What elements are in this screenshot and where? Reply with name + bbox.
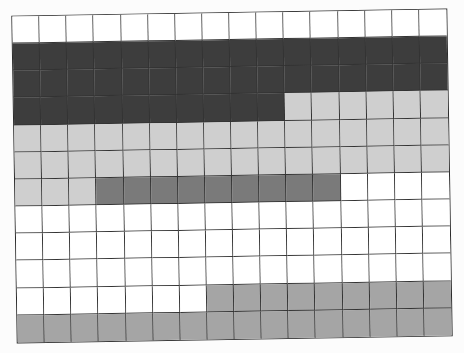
grid-cell: [392, 37, 420, 65]
grid-cell: [393, 64, 421, 92]
grid-cell: [286, 175, 314, 203]
grid-cell: [68, 124, 96, 152]
grid-cell: [126, 313, 154, 341]
grid-cell: [204, 149, 232, 177]
grid-cell: [423, 254, 451, 282]
grid-cell: [230, 67, 258, 95]
shaded-grid: [11, 8, 452, 343]
grid-cell: [288, 283, 316, 311]
grid-cell: [233, 257, 261, 285]
grid-cell: [284, 66, 312, 94]
grid-cell: [94, 42, 122, 70]
grid-cell: [95, 123, 123, 151]
grid-cell: [257, 39, 285, 67]
grid-cell: [125, 286, 153, 314]
grid-cell: [394, 146, 422, 174]
grid-cell: [15, 152, 43, 180]
grid-cell: [315, 283, 343, 311]
grid-cell: [259, 148, 287, 176]
grid-cell: [175, 13, 203, 41]
grid-cell: [370, 309, 398, 337]
grid-cell: [15, 179, 43, 207]
grid-cell: [420, 91, 448, 119]
grid-cell: [231, 121, 259, 149]
grid-cell: [44, 287, 72, 315]
grid-cell: [42, 179, 70, 207]
grid-cell: [124, 177, 152, 205]
grid-cell: [261, 311, 289, 339]
grid-cell: [258, 94, 286, 122]
grid-cell: [367, 119, 395, 147]
grid-cell: [67, 70, 95, 98]
grid-cell: [256, 12, 284, 40]
grid-cell: [311, 11, 339, 39]
grid-cell: [40, 43, 68, 71]
grid-cell: [422, 172, 450, 200]
grid-cell: [13, 70, 41, 98]
grid-cell: [341, 228, 369, 256]
grid-cell: [150, 123, 178, 151]
grid-cell: [151, 204, 179, 232]
grid-cell: [72, 314, 100, 342]
grid-cell: [149, 95, 177, 123]
grid-cell: [121, 14, 149, 42]
grid-cell: [232, 176, 260, 204]
grid-cell: [311, 38, 339, 66]
grid-cell: [203, 67, 231, 95]
grid-cell: [40, 70, 68, 98]
grid-cell: [203, 40, 231, 68]
grid-cell: [315, 256, 343, 284]
grid-cell: [13, 43, 41, 71]
grid-cell: [207, 312, 235, 340]
grid-cell: [368, 200, 396, 228]
grid-cell: [396, 227, 424, 255]
grid-cell: [202, 13, 230, 41]
grid-cell: [397, 309, 425, 337]
grid-cell: [70, 205, 98, 233]
grid-cell: [312, 93, 340, 121]
grid-cell: [69, 178, 97, 206]
grid-cell: [339, 65, 367, 93]
grid-cell: [284, 39, 312, 67]
grid-cell: [148, 14, 176, 42]
grid-cell: [424, 281, 452, 309]
grid-cell: [340, 119, 368, 147]
grid-cell: [260, 257, 288, 285]
grid-cell: [95, 96, 123, 124]
grid-cell: [67, 42, 95, 70]
grid-cell: [41, 124, 69, 152]
grid-cell: [396, 254, 424, 282]
grid-cell: [41, 97, 69, 125]
grid-cell: [180, 312, 208, 340]
grid-cell: [95, 69, 123, 97]
grid-cell: [178, 176, 206, 204]
grid-cell: [260, 229, 288, 257]
grid-cell: [313, 174, 341, 202]
grid-cell: [122, 69, 150, 97]
grid-cell: [43, 233, 71, 261]
grid-cell: [71, 287, 99, 315]
grid-cell: [149, 68, 177, 96]
grid-cell: [97, 232, 125, 260]
grid-cell: [98, 286, 126, 314]
grid-cell: [94, 15, 122, 43]
grid-cell: [397, 281, 425, 309]
grid-cell: [122, 96, 150, 124]
grid-cell: [316, 310, 344, 338]
grid-cell: [367, 146, 395, 174]
grid-cell: [313, 147, 341, 175]
grid-cell: [68, 97, 96, 125]
grid-cell: [260, 202, 288, 230]
grid-cell: [424, 308, 452, 336]
grid-cell: [71, 260, 99, 288]
grid-cell: [152, 286, 180, 314]
grid-cell: [419, 9, 447, 37]
grid-cell: [338, 38, 366, 66]
grid-cell: [234, 284, 262, 312]
grid-cell: [365, 37, 393, 65]
grid-cell: [204, 122, 232, 150]
grid-cell: [369, 282, 397, 310]
grid-cell: [176, 41, 204, 69]
grid-cell: [261, 284, 289, 312]
grid-cell: [121, 42, 149, 70]
